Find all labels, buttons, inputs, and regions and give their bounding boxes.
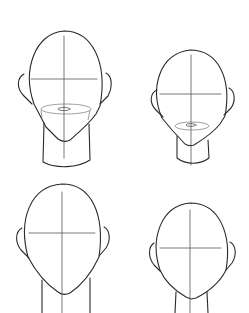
sketch-canvas bbox=[0, 0, 249, 313]
head-sketch-top-left bbox=[18, 31, 111, 167]
head-sketch-bottom-left bbox=[17, 184, 110, 313]
head-sketch-bottom-right bbox=[150, 203, 236, 313]
head-sketch-top-right bbox=[151, 50, 234, 165]
